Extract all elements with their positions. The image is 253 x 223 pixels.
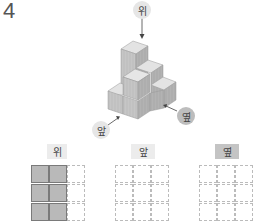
- side-direction-label: 옆: [177, 107, 195, 125]
- grid-cell[interactable]: [235, 184, 253, 202]
- grid-cell[interactable]: [31, 165, 49, 183]
- grid-cell[interactable]: [133, 203, 151, 221]
- grid-cell[interactable]: [49, 184, 67, 202]
- front-direction-label: 앞: [92, 121, 110, 139]
- grid-cell[interactable]: [67, 184, 85, 202]
- grid-cell[interactable]: [49, 203, 67, 221]
- grid-cell[interactable]: [115, 203, 133, 221]
- grid-cell[interactable]: [235, 165, 253, 183]
- cube-stack-figure: [0, 0, 253, 140]
- grid-cell[interactable]: [49, 165, 67, 183]
- grid-cell[interactable]: [235, 203, 253, 221]
- grid-cell[interactable]: [217, 165, 235, 183]
- view-label-top: 위: [47, 144, 67, 159]
- grid-cell[interactable]: [151, 165, 169, 183]
- grid-cell[interactable]: [217, 184, 235, 202]
- front-view-grid[interactable]: [115, 165, 171, 223]
- grid-cell[interactable]: [199, 184, 217, 202]
- view-label-side: 옆: [215, 144, 239, 159]
- grid-cell[interactable]: [31, 203, 49, 221]
- top-view-grid[interactable]: [31, 165, 87, 223]
- grid-cell[interactable]: [199, 165, 217, 183]
- grid-cell[interactable]: [151, 203, 169, 221]
- grid-cell[interactable]: [115, 184, 133, 202]
- grid-cell[interactable]: [217, 203, 235, 221]
- grid-cell[interactable]: [115, 165, 133, 183]
- side-view-grid[interactable]: [199, 165, 253, 223]
- grid-cell[interactable]: [67, 203, 85, 221]
- view-label-front: 앞: [131, 144, 155, 159]
- top-direction-label: 위: [133, 1, 151, 19]
- grid-cell[interactable]: [151, 184, 169, 202]
- grid-cell[interactable]: [133, 184, 151, 202]
- grid-cell[interactable]: [31, 184, 49, 202]
- grid-cell[interactable]: [199, 203, 217, 221]
- grid-cell[interactable]: [133, 165, 151, 183]
- grid-cell[interactable]: [67, 165, 85, 183]
